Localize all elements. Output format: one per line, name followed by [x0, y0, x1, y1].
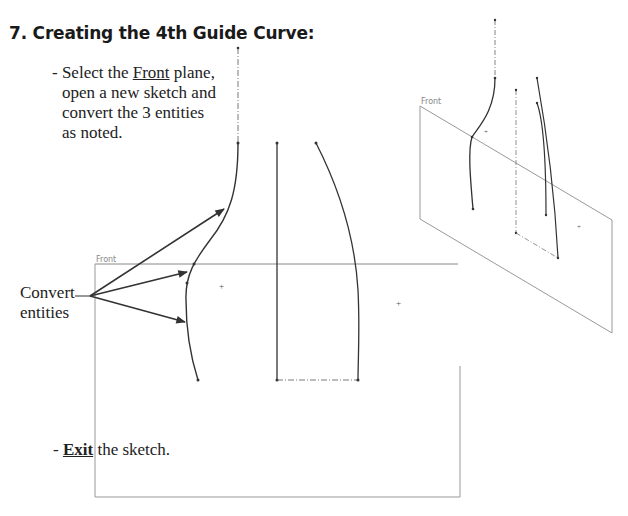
origin-marker: + — [396, 298, 401, 308]
right-guide-curve — [316, 143, 359, 380]
callout-arrows — [75, 209, 224, 322]
exit-rest: the sketch. — [93, 440, 170, 459]
svg-text:+: + — [577, 223, 581, 231]
origin-marker: + — [219, 281, 224, 291]
svg-text:+: + — [484, 128, 488, 136]
isometric-view: Front + + — [420, 19, 612, 333]
cad-drawing: Front + + Front — [0, 0, 628, 516]
iso-plane-label: Front — [421, 97, 441, 106]
left-guide-curve — [186, 143, 238, 380]
exit-action: Exit — [63, 440, 93, 459]
front-plane-label: Front — [96, 255, 116, 264]
exit-instruction: - Exit the sketch. — [53, 440, 170, 460]
exit-prefix: - — [53, 440, 63, 459]
